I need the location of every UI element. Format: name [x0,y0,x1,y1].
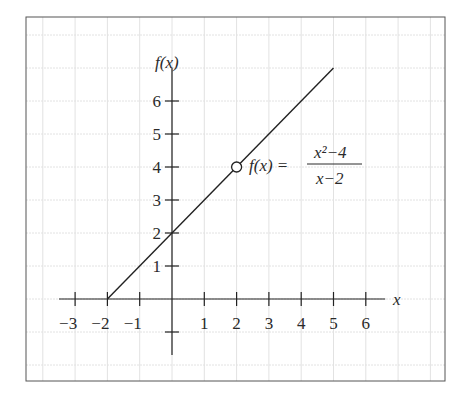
y-tick-label: 2 [153,224,162,243]
y-tick-label: 3 [153,191,162,210]
annotation-lhs: f(x) = [249,156,288,175]
series [107,68,333,299]
x-tick-label: 6 [362,314,371,333]
x-tick-label: 2 [232,314,241,333]
x-axis-label: x [392,290,401,309]
annotation-numerator: x²−4 [313,143,347,162]
annotation-denominator: x−2 [315,169,344,188]
ticks: −3−2−1123456123456 [59,92,370,333]
y-tick-label: 1 [153,257,162,276]
y-tick-label: 6 [153,92,162,111]
x-tick-label: 5 [329,314,338,333]
x-tick-label: 4 [297,314,306,333]
y-axis-label: f(x) [155,53,179,72]
y-tick-label: 4 [153,158,162,177]
x-tick-label: 1 [200,314,209,333]
x-tick-label: −3 [59,314,77,333]
chart: −3−2−1123456123456 x f(x) f(x) = x²−4 x−… [0,0,452,398]
x-tick-label: 3 [265,314,274,333]
series-line [107,68,333,299]
x-tick-label: −1 [124,314,142,333]
x-tick-label: −2 [91,314,109,333]
hole-point [232,162,242,172]
function-annotation: f(x) = x²−4 x−2 [249,143,362,188]
y-tick-label: 5 [153,125,162,144]
